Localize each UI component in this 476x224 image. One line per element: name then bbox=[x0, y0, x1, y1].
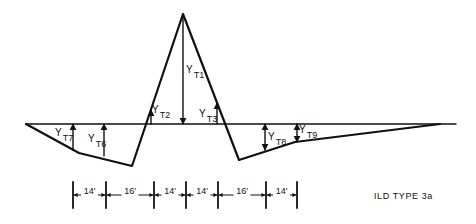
dimension-label: 16' bbox=[236, 186, 248, 196]
dimension-label: 16' bbox=[124, 186, 136, 196]
ordinate-label-yt3: YT3 bbox=[199, 108, 217, 124]
dimension-line-group: 14'16'14'14'16'14' bbox=[73, 182, 297, 208]
diagram-title: ILD TYPE 3a bbox=[374, 191, 433, 201]
dimension-label: 14' bbox=[276, 186, 288, 196]
dimension-label: 14' bbox=[84, 186, 96, 196]
ordinate-label-yt1: YT1 bbox=[186, 64, 204, 80]
dimension-label: 14' bbox=[164, 186, 176, 196]
ordinate-label-yt8: YT8 bbox=[268, 131, 286, 147]
ordinate-label-yt2: YT2 bbox=[152, 104, 170, 120]
dimension-label: 14' bbox=[196, 186, 208, 196]
ild-diagram: YT1YT2YT3YT7YT6YT8YT9 14'16'14'14'16'14'… bbox=[0, 0, 476, 224]
ordinates-group: YT1YT2YT3YT7YT6YT8YT9 bbox=[55, 17, 317, 156]
ordinate-label-yt9: YT9 bbox=[299, 124, 317, 140]
